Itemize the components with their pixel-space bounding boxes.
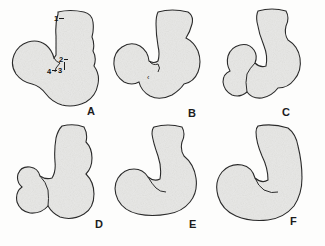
panel-letter-a: A <box>87 106 95 117</box>
panel-b <box>110 6 218 127</box>
panel-letter-e: E <box>189 219 196 230</box>
panel-letter-f: F <box>290 216 297 227</box>
annotation-number-4: 4 <box>47 68 51 76</box>
figure-root: A B C D E F 1 2 3 4 ‹ <box>0 0 325 246</box>
panel-f <box>210 122 318 243</box>
panel-c <box>210 6 318 127</box>
leader-line-4 <box>52 70 57 71</box>
panel-letter-c: C <box>282 107 290 118</box>
panel-f-drawing <box>210 122 318 243</box>
leader-line-1 <box>59 18 64 19</box>
leader-line-3 <box>64 62 65 70</box>
panel-letter-d: D <box>95 219 103 230</box>
annotation-number-1: 1 <box>54 15 58 23</box>
panel-b-drawing <box>110 6 218 127</box>
panel-e-drawing <box>110 122 218 243</box>
panel-c-drawing <box>210 6 318 127</box>
arrow-marker-icon: ‹ <box>147 74 149 81</box>
annotation-number-2: 2 <box>59 56 63 64</box>
annotation-number-3: 3 <box>58 67 62 75</box>
leader-line-2 <box>64 59 68 60</box>
panel-letter-b: B <box>188 108 196 119</box>
panel-e <box>110 122 218 243</box>
